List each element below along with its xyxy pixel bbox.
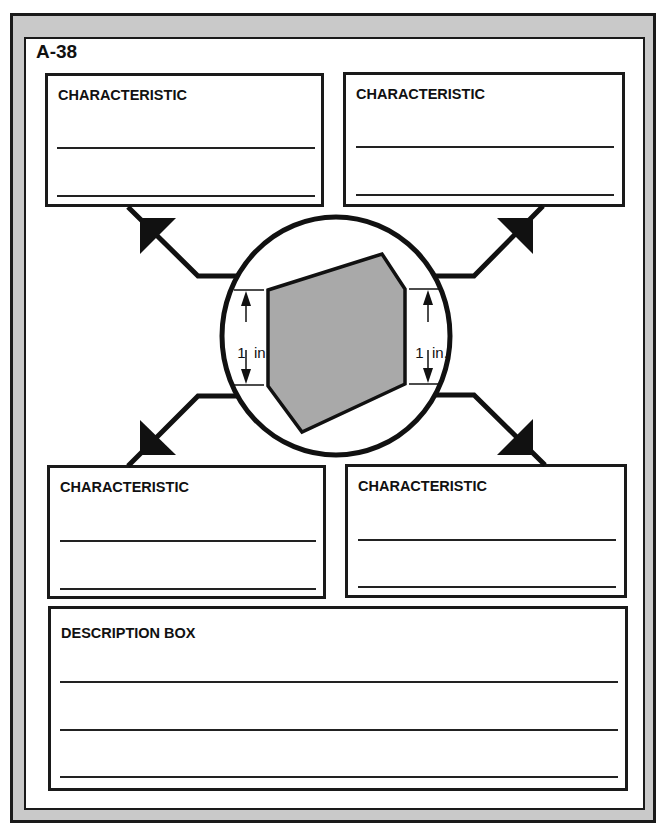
right-dimension-label: 1 in. [407,327,448,361]
left-dimension-label: 1 in. [229,327,270,361]
left-dimension-value: 1 [237,344,245,361]
right-dimension-unit: in. [432,344,448,361]
right-dimension-value: 1 [415,344,423,361]
left-dimension-unit: in. [254,344,270,361]
center-diagram [0,0,669,834]
